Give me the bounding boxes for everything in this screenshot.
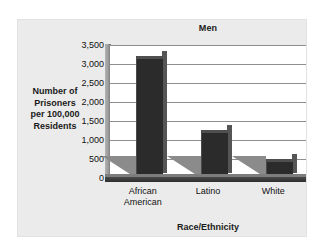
x-axis-category-label: AfricanAmerican bbox=[107, 186, 179, 207]
y-axis-tick-label: 2,500 bbox=[58, 79, 104, 88]
x-axis-category-label-line: African bbox=[107, 186, 179, 197]
bar-front-face bbox=[136, 56, 163, 178]
x-axis-category-label-line: White bbox=[237, 186, 309, 197]
y-axis-tick-label: 500 bbox=[58, 155, 104, 164]
bar-front-face bbox=[201, 130, 228, 178]
x-axis-category-label-line: American bbox=[107, 197, 179, 208]
plot-area bbox=[110, 45, 306, 178]
x-axis-title: Race/Ethnicity bbox=[110, 222, 306, 232]
gridline bbox=[110, 45, 306, 46]
y-axis-tick-label: 3,500 bbox=[58, 41, 104, 50]
chart-figure: Men Number of Prisoners per 100,000 Resi… bbox=[0, 0, 321, 248]
bar bbox=[201, 130, 227, 178]
bar-top-face bbox=[267, 159, 293, 162]
x-axis-line bbox=[105, 177, 306, 182]
y-axis-tick-label: 1,000 bbox=[58, 136, 104, 145]
bar bbox=[136, 56, 162, 178]
bar-top-face bbox=[137, 56, 163, 59]
y-axis-tick-label: 0 bbox=[58, 174, 104, 183]
y-axis-tick-label: 1,500 bbox=[58, 117, 104, 126]
bar-top-face bbox=[202, 130, 228, 133]
y-axis-tick-label: 3,000 bbox=[58, 60, 104, 69]
x-axis-category-label: White bbox=[237, 186, 309, 197]
chart-title: Men bbox=[110, 23, 306, 33]
y-axis-tick-label: 2,000 bbox=[58, 98, 104, 107]
x-axis-category-label-line: Latino bbox=[172, 186, 244, 197]
y-axis-tick-labels: 3,5003,0002,5002,0001,5001,0005000 bbox=[58, 0, 104, 248]
x-axis-category-label: Latino bbox=[172, 186, 244, 197]
